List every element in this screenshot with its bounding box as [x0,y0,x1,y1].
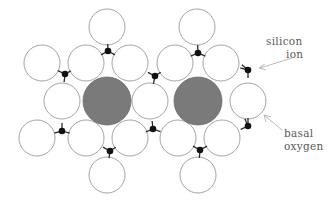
silicon-ion [197,147,204,154]
silicon-label-line1: silicon [266,35,303,48]
silicon-ion [62,71,69,78]
basal-oxygen [204,120,240,156]
basal-oxygen [24,45,60,81]
silicon-ion-label: silicon ion [266,35,303,61]
basal-oxygen [89,157,125,193]
silicon-label-line2: ion [266,48,303,61]
silicon-ion [152,73,159,80]
basal-oxygen [19,120,55,156]
silicon-ion [195,50,202,57]
basal-oxygen [68,120,104,156]
basal-oxygen-label: basal oxygen [284,127,324,153]
silicate-sheet-diagram [0,0,333,204]
basal-oxygen [180,157,216,193]
basal-oxygen-arrow [264,115,282,130]
interlayer-cation [174,77,222,125]
silicon-ion [150,126,157,133]
oxygen-label-line1: basal [284,127,324,140]
silicon-ion [245,67,252,74]
basal-oxygen [160,120,196,156]
basal-oxygen [157,45,193,81]
basal-oxygen [112,45,148,81]
basal-oxygen [203,45,239,81]
interlayer-cation [83,77,131,125]
basal-oxygen [89,9,125,45]
basal-oxygen-group [19,9,266,193]
silicon-ion [105,48,112,55]
silicon-ion [107,148,114,155]
silicon-ion [59,128,66,135]
basal-oxygen [44,83,80,119]
basal-oxygen [179,9,215,45]
oxygen-label-line2: oxygen [284,140,324,153]
basal-oxygen [230,83,266,119]
basal-oxygen [68,45,104,81]
silicon-ion [245,123,252,130]
basal-oxygen [132,83,168,119]
basal-oxygen [112,120,148,156]
